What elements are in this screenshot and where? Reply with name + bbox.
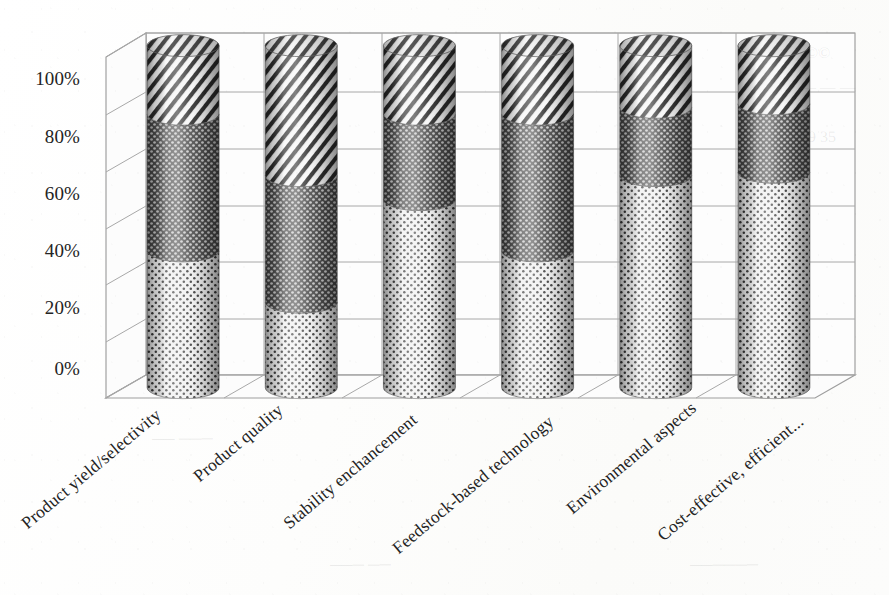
ytick-label-100: 100% xyxy=(8,68,80,90)
bar-1-segment-3-shading xyxy=(147,46,219,125)
bar-5-segment-1-shading xyxy=(620,176,692,399)
ytick-label-20: 20% xyxy=(8,297,80,319)
bar-1 xyxy=(147,35,219,399)
bar-4-segment-1-shading xyxy=(502,251,574,399)
bar-5 xyxy=(620,35,692,399)
bar-3-segment-3-shading xyxy=(383,46,455,125)
bar-3-segment-1-shading xyxy=(383,200,455,399)
bar-1-top-cap-shading xyxy=(147,35,219,57)
bar-4-segment-2-shading xyxy=(502,114,574,262)
bar-6 xyxy=(738,35,810,399)
ytick-label-40: 40% xyxy=(8,240,80,262)
bar-2-segment-1-shading xyxy=(265,302,337,398)
bar-3 xyxy=(383,35,455,399)
bar-2 xyxy=(265,35,337,399)
bar-1-segment-1-shading xyxy=(147,251,219,399)
bar-6-segment-1-shading xyxy=(738,172,810,398)
bar-4-top-cap-shading xyxy=(502,35,574,57)
ytick-label-0: 0% xyxy=(8,358,80,380)
bar-5-segment-2-shading xyxy=(620,107,692,186)
bar-4 xyxy=(502,35,574,399)
stacked-cylinder-chart: 100% 80% 60% 40% 20% 0% Product yield/se… xyxy=(0,0,889,595)
bar-2-top-cap-shading xyxy=(265,35,337,57)
ytick-label-80: 80% xyxy=(8,126,80,148)
bar-2-segment-2-shading xyxy=(265,176,337,314)
ytick-label-60: 60% xyxy=(8,183,80,205)
bar-1-segment-2-shading xyxy=(147,114,219,262)
bar-6-top-cap-shading xyxy=(738,35,810,57)
bar-5-top-cap-shading xyxy=(620,35,692,57)
bar-6-segment-2-shading xyxy=(738,104,810,183)
bar-3-top-cap-shading xyxy=(383,35,455,57)
bar-2-segment-3-shading xyxy=(265,46,337,187)
bar-4-segment-3-shading xyxy=(502,46,574,125)
bar-3-segment-2-shading xyxy=(383,114,455,211)
